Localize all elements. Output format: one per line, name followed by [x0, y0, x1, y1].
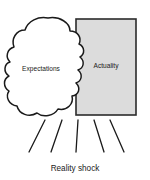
- shock-ray-2: [51, 120, 62, 152]
- reality-shock-caption: Reality shock: [51, 164, 101, 173]
- shock-ray-5: [110, 120, 124, 152]
- expectations-label: Expectations: [22, 65, 60, 73]
- shock-ray-3: [76, 120, 78, 152]
- actuality-label: Actuality: [94, 62, 120, 70]
- reality-shock-rays: [29, 120, 124, 152]
- diagram-svg: Expectations Actuality Reality shock: [0, 0, 150, 180]
- shock-ray-1: [29, 120, 45, 152]
- diagram-canvas: Expectations Actuality Reality shock: [0, 0, 150, 180]
- shock-ray-4: [94, 120, 104, 152]
